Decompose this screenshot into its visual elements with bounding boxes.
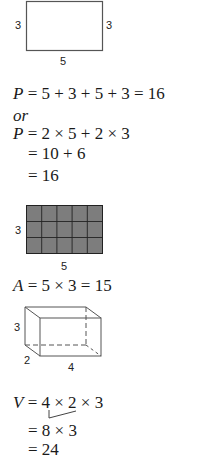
area-equation: A = 5 × 3 = 15: [13, 277, 112, 294]
area-bottom-label: 5: [61, 261, 67, 272]
perimeter-equation-2: P = 2 × 5 + 2 × 3: [13, 125, 130, 142]
perimeter-left-label: 3: [15, 20, 21, 31]
perimeter-equation-1: P = 5 + 3 + 5 + 3 = 16: [13, 85, 165, 102]
volume-height-label: 3: [14, 322, 20, 333]
volume-width-label: 4: [68, 362, 74, 373]
volume-equation-1: V = 4 × 2 × 3: [13, 394, 103, 411]
perimeter-right-label: 3: [106, 20, 112, 31]
area-grid: [27, 206, 103, 254]
perimeter-equation-4: = 16: [28, 167, 59, 184]
volume-equation-3: = 24: [28, 441, 59, 455]
volume-equation-2: = 8 × 3: [28, 422, 77, 439]
volume-prism: [25, 307, 101, 356]
volume-depth-label: 2: [24, 355, 30, 366]
or-connector: or: [13, 107, 28, 124]
area-left-label: 3: [15, 225, 21, 236]
perimeter-equation-3: = 10 + 6: [28, 145, 85, 162]
perimeter-rectangle: [27, 2, 103, 51]
figures-canvas: [0, 0, 200, 455]
perimeter-bottom-label: 5: [60, 56, 66, 67]
